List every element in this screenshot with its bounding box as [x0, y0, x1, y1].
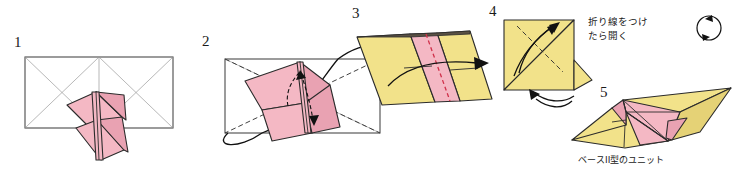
- step-4-group: 4: [489, 3, 592, 107]
- rotate-icon: [697, 15, 721, 41]
- unit-caption: ベースII型のユニット: [578, 155, 664, 165]
- step-5-group: 5: [572, 84, 731, 148]
- flip-over-arrow-head: [529, 89, 540, 100]
- step-3-number: 3: [352, 5, 360, 21]
- origami-steps-diagram: 1 2: [0, 0, 740, 176]
- step-2-pink-upper-left: [245, 62, 305, 110]
- step-3-group: 3: [352, 5, 492, 105]
- step-2-wrap-curve-lower: [223, 133, 262, 145]
- diagram-canvas: 1 2: [0, 0, 740, 176]
- step-4-flap-right: [574, 60, 592, 90]
- flip-over-arrow-shaft: [533, 92, 574, 101]
- step-4-number: 4: [489, 3, 497, 19]
- fold-open-note-line-2: たら開く: [588, 30, 628, 41]
- fold-open-note-line-1: 折り線をつけ: [588, 16, 648, 27]
- step-5-number: 5: [600, 84, 608, 100]
- step-1-number: 1: [14, 34, 22, 50]
- step-2-number: 2: [202, 33, 210, 49]
- step-1-group: 1: [14, 34, 173, 160]
- fold-open-note: 折り線をつけ たら開く: [588, 16, 648, 41]
